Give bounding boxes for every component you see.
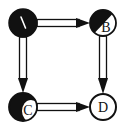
edge-c-to-d — [37, 102, 90, 112]
edge-a-to-b — [37, 18, 90, 28]
node-d: D — [90, 94, 116, 120]
node-a — [9, 9, 37, 37]
node-b: B — [88, 8, 118, 40]
node-c-label: C — [23, 103, 32, 118]
arrowhead-icon — [98, 78, 108, 94]
node-d-label: D — [98, 100, 108, 115]
arrowhead-icon — [76, 18, 90, 28]
arrowhead-icon — [18, 78, 28, 93]
graph-diagram: B C D — [0, 0, 125, 128]
edge-b-to-d — [98, 36, 108, 94]
arrowhead-icon — [76, 102, 90, 112]
node-c: C — [9, 93, 40, 122]
edge-a-to-c — [18, 37, 28, 93]
node-b-label: B — [101, 20, 110, 35]
